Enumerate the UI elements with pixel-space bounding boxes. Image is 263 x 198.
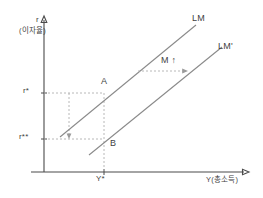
point-a-label: A [101, 77, 107, 86]
y-axis-name-label: (이자율) [19, 27, 46, 35]
lm-curve-label: LM [192, 14, 205, 23]
axes-group [31, 16, 249, 175]
reference-lines-group [44, 93, 104, 172]
lm-prime-curve-label: LM' [218, 42, 233, 51]
rate-fall-arrow-group [67, 93, 72, 139]
ticks-group [41, 93, 104, 175]
lm-prime-curve [89, 47, 222, 155]
r-star-tick-label: r* [23, 87, 29, 95]
money-shift-arrow-group [138, 68, 188, 73]
x-axis-name-label: Y(총소득) [206, 176, 238, 184]
lm-curve [60, 25, 196, 137]
y-axis-symbol-label: r [36, 16, 39, 24]
money-shift-arrow-head [182, 68, 188, 73]
lm-curve-figure: r (이자율) Y(총소득) LM LM' M ↑ A B r* r** Y* [0, 0, 263, 198]
y-star-tick-label: Y* [96, 175, 105, 183]
money-shift-label: M ↑ [161, 56, 176, 65]
r-starstar-tick-label: r** [19, 133, 29, 141]
rate-fall-arrow-head [67, 134, 72, 140]
point-b-label: B [110, 139, 116, 148]
